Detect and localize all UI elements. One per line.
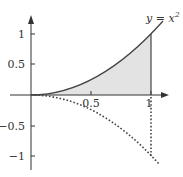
x-axis-arrow-icon — [161, 92, 169, 98]
y-tick-label-0.5: 0.5 — [8, 58, 26, 71]
y-tick-label-1: 1 — [18, 28, 25, 41]
plot-area: 1 0.5 −0.5 −1 0.5 1 y = x2 — [0, 0, 183, 177]
y-tick-label-m0.5: −0.5 — [0, 120, 25, 133]
x-tick-label-0.5: 0.5 — [82, 97, 100, 110]
curve-label: y = x2 — [145, 10, 180, 25]
y-axis-arrow-icon — [28, 15, 34, 24]
y-tick-label-m1: −1 — [9, 150, 25, 163]
shaded-region — [31, 34, 151, 95]
